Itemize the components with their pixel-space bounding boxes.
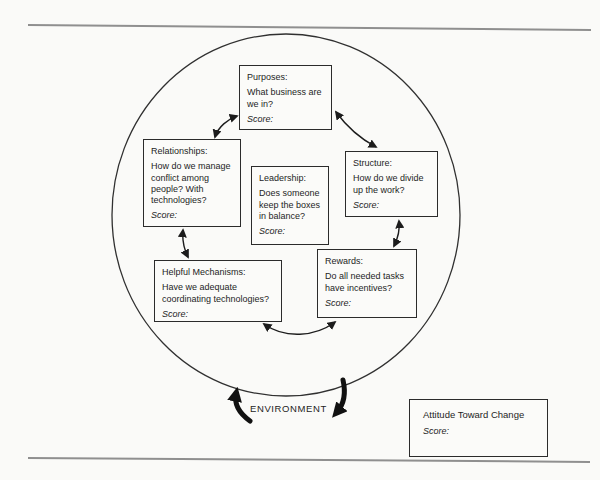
attitude-toward-change-box: Attitude Toward Change Score: (409, 399, 548, 457)
purposes-question: What business are we in? (247, 87, 325, 110)
relationships-title: Relationships: (151, 146, 234, 157)
leadership-score-label: Score: (259, 226, 322, 237)
purposes-score-label: Score: (247, 114, 325, 125)
relationships-score-label: Score: (151, 210, 234, 221)
helpful-mechanisms-title: Helpful Mechanisms: (162, 267, 275, 278)
leadership-box: Leadership: Does someone keep the boxes … (251, 166, 329, 245)
structure-box: Structure: How do we divide up the work?… (345, 151, 438, 217)
rewards-question: Do all needed tasks have incentives? (325, 271, 410, 294)
rewards-score-label: Score: (325, 298, 410, 309)
environment-label: ENVIRONMENT (250, 403, 340, 414)
arrow-structure-rewards (394, 221, 399, 246)
structure-question: How do we divide up the work? (353, 173, 431, 196)
relationships-box: Relationships: How do we manage conflict… (143, 139, 241, 227)
rewards-title: Rewards: (325, 256, 410, 267)
relationships-question: How do we manage conflict among people? … (151, 161, 234, 206)
attitude-score-label: Score: (423, 426, 539, 437)
arrow-helpful-mechanisms-rewards (264, 322, 335, 334)
purposes-title: Purposes: (247, 72, 325, 83)
arrow-relationships-helpful-mechanisms (183, 230, 188, 257)
arrow-purposes-relationships (215, 116, 237, 137)
helpful-mechanisms-box: Helpful Mechanisms: Have we adequate coo… (154, 260, 282, 322)
arrow-purposes-structure (336, 112, 376, 147)
rewards-box: Rewards: Do all needed tasks have incent… (317, 249, 417, 318)
leadership-question: Does someone keep the boxes in balance? (259, 188, 322, 222)
helpful-mechanisms-score-label: Score: (162, 309, 275, 320)
structure-title: Structure: (353, 158, 431, 169)
purposes-box: Purposes: What business are we in? Score… (239, 65, 332, 130)
helpful-mechanisms-question: Have we adequate coordinating technologi… (162, 282, 275, 305)
scanned-figure-page: { "page": { "background": "#fafaf8", "ru… (0, 0, 600, 480)
environment-inflow-arrow (236, 394, 250, 421)
leadership-title: Leadership: (259, 173, 322, 184)
structure-score-label: Score: (353, 200, 431, 211)
attitude-title: Attitude Toward Change (423, 409, 539, 421)
